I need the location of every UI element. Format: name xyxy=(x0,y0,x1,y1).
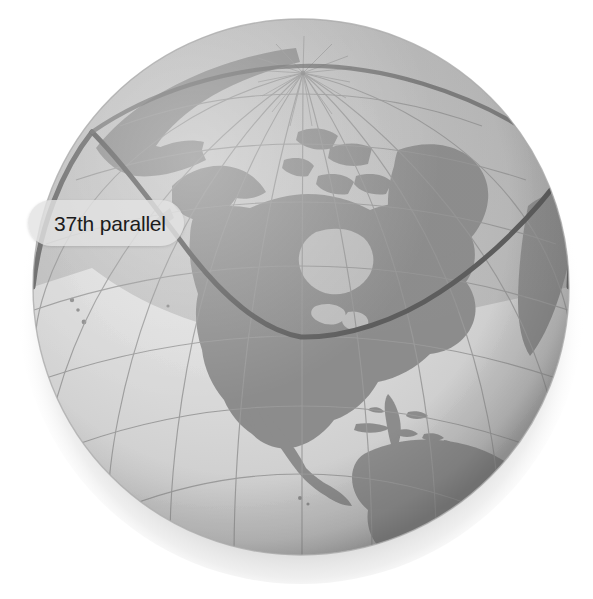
parallel-callout-text: 37th parallel xyxy=(54,213,166,234)
globe-illustration xyxy=(0,0,593,599)
parallel-callout-label[interactable]: 37th parallel xyxy=(28,200,184,246)
globe-svg xyxy=(0,0,593,599)
globe-figure-stage: 37th parallel xyxy=(0,0,593,599)
globe-lighting xyxy=(33,19,569,555)
